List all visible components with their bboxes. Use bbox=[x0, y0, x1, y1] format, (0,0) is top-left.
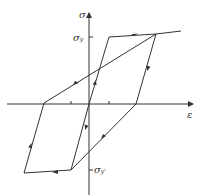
sigma-y-label: σy bbox=[73, 33, 83, 43]
sigma-y-prime-label: σy' bbox=[94, 165, 106, 175]
hysteresis-loop bbox=[24, 31, 181, 173]
y-axis-label: σ bbox=[79, 10, 86, 20]
sigma-y-symbol: σ bbox=[73, 32, 80, 43]
sigma-y-subscript: y bbox=[80, 35, 83, 42]
prime-mark: ' bbox=[104, 167, 106, 174]
sigma-y-prime-symbol: σ bbox=[94, 164, 101, 175]
x-axis-label: ε bbox=[187, 110, 192, 120]
